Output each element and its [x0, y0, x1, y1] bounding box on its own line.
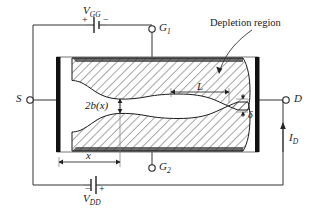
label-delta: δ: [248, 110, 253, 120]
label-gate2-sub: 2: [167, 166, 171, 175]
drain-contact-bar: [255, 57, 260, 152]
source-contact-bar: [56, 57, 61, 152]
id-arrow-head: [280, 122, 286, 129]
label-gate2-text: G: [159, 160, 167, 172]
sign-vgg-minus: −: [103, 15, 109, 25]
jfet-diagram: VGG + − VDD − + G1 G2 S D ID 2b(x) x L δ…: [0, 0, 316, 209]
terminal-g2-node[interactable]: [149, 165, 155, 171]
label-position-x: x: [86, 150, 91, 161]
label-channel-width: 2b(x): [85, 100, 108, 111]
sign-vgg-plus: +: [82, 15, 88, 25]
sign-vdd-plus: +: [99, 184, 105, 194]
label-drain-current: ID: [289, 132, 298, 146]
diagram-canvas: [0, 0, 316, 209]
label-gate2: G2: [159, 161, 171, 175]
label-vdd: VDD: [83, 193, 101, 207]
terminal-g1-node[interactable]: [149, 26, 155, 32]
label-drain: D: [294, 93, 302, 104]
current-arrow-id: [280, 122, 286, 152]
label-gate1-sub: 1: [167, 27, 171, 36]
label-id-sub: D: [293, 137, 298, 146]
sign-vdd-minus: −: [85, 184, 91, 194]
label-gate1-text: G: [159, 21, 167, 33]
label-vgg-sub: GG: [90, 10, 101, 19]
terminal-source-node[interactable]: [27, 97, 33, 103]
label-gate1: G1: [159, 22, 171, 36]
label-vdd-sub: DD: [90, 198, 101, 207]
label-pinch-length: L: [197, 81, 203, 92]
label-depletion-region: Depletion region: [210, 18, 281, 29]
terminal-drain-node[interactable]: [283, 97, 289, 103]
label-source: S: [16, 93, 22, 104]
